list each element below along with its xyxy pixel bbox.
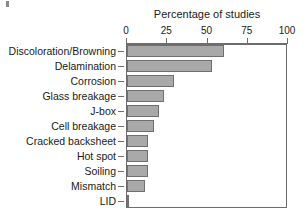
y-tick-mark [118, 66, 124, 67]
y-category-label: Soiling [84, 165, 116, 176]
y-tick-mark [118, 96, 124, 97]
bar [127, 120, 154, 132]
y-category-label: LID [100, 195, 116, 206]
y-category-label: Glass breakage [42, 91, 116, 102]
y-tick-mark [118, 111, 124, 112]
bar [127, 150, 148, 162]
y-tick-mark [118, 126, 124, 127]
x-tick-mark-25 [166, 38, 167, 44]
x-tick-label-0: 0 [123, 25, 129, 36]
x-tick-label-25: 25 [161, 25, 172, 36]
y-category-label: Cell breakage [51, 121, 116, 132]
bar [127, 45, 224, 57]
x-tick-mark-0 [126, 38, 127, 44]
x-tick-label-50: 50 [201, 25, 212, 36]
y-category-label: J-box [90, 106, 116, 117]
y-category-label: Corrosion [70, 76, 116, 87]
bar [127, 105, 159, 117]
y-tick-mark [118, 171, 124, 172]
x-tick-mark-50 [207, 38, 208, 44]
y-tick-mark [118, 81, 124, 82]
bar [127, 135, 148, 147]
y-tick-mark [118, 51, 124, 52]
x-tick-mark-100 [287, 38, 288, 44]
y-tick-mark [118, 141, 124, 142]
y-axis-category-labels: Discoloration/BrowningDelaminationCorros… [0, 44, 124, 208]
bar [127, 180, 145, 192]
y-category-label: Delamination [55, 61, 116, 72]
scan-artifact-speck [6, 1, 9, 7]
bar [127, 195, 129, 207]
bar [127, 165, 148, 177]
y-tick-mark [118, 156, 124, 157]
y-category-label: Mismatch [71, 180, 116, 191]
bars-container [127, 45, 286, 207]
y-tick-mark [118, 201, 124, 202]
bar [127, 90, 164, 102]
x-tick-label-100: 100 [279, 25, 296, 36]
x-axis-tick-labels: 0255075100 [0, 25, 306, 37]
y-category-label: Discoloration/Browning [9, 46, 116, 57]
bar [127, 60, 212, 72]
y-category-label: Cracked backsheet [26, 135, 116, 146]
y-category-label: Hot spot [77, 150, 116, 161]
x-tick-label-75: 75 [241, 25, 252, 36]
chart-axis-title: Percentage of studies [126, 8, 288, 20]
x-tick-mark-75 [247, 38, 248, 44]
y-tick-mark [118, 186, 124, 187]
bar-chart-figure: Percentage of studies 0255075100 Discolo… [0, 0, 306, 217]
bar [127, 75, 174, 87]
